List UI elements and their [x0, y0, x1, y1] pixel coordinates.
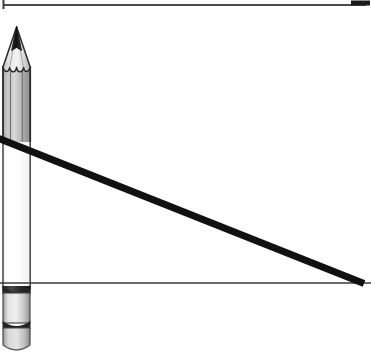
pencil-ferrule-body [3, 293, 30, 323]
top-rule-right-cap [351, 1, 370, 6]
pencil-upper-shaft [3, 68, 31, 142]
pencil-eraser [3, 328, 30, 350]
diagonal-angle-line [0, 139, 364, 284]
top-horizontal-rule-group [3, 0, 370, 9]
pencil-graphic [3, 26, 31, 350]
diagram-canvas: Pencil with horizontal reference lines a… [0, 0, 371, 357]
pencil-lower-shaft [3, 138, 31, 288]
diagram-figure [0, 0, 371, 357]
